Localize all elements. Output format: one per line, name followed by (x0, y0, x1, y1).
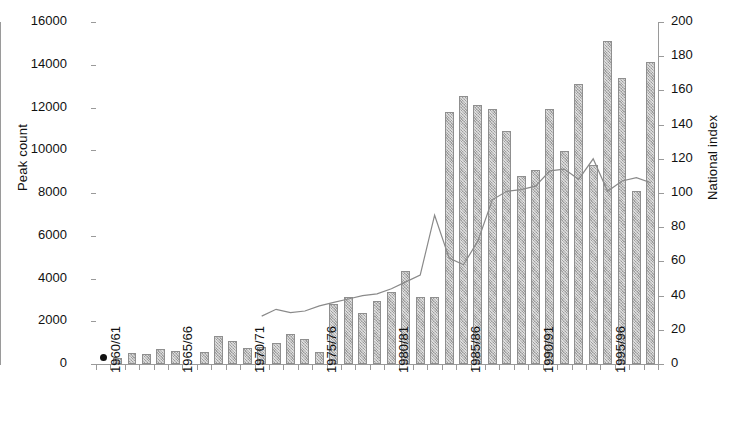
x-axis-tick-label: 1985/86 (468, 326, 483, 373)
x-axis-tick-label: 1995/96 (613, 326, 628, 373)
x-axis-tick-labels: 1960/611965/661970/711975/761980/811985/… (0, 0, 733, 437)
x-axis-tick-label: 1970/71 (252, 326, 267, 373)
chart-root: Peak count National index 02000400060008… (0, 0, 733, 437)
x-axis-tick-label: 1965/66 (180, 326, 195, 373)
x-axis-tick-label: 1980/81 (396, 326, 411, 373)
x-axis-tick-label: 1975/76 (324, 326, 339, 373)
x-axis-tick-label: 1960/61 (108, 326, 123, 373)
x-axis-tick-label: 1990/91 (541, 326, 556, 373)
first-year-marker-icon (100, 354, 107, 361)
